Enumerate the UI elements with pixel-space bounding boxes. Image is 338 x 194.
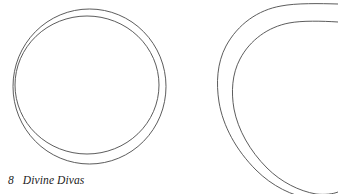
rounded-triangle-pattern — [217, 4, 338, 194]
circle-pattern-inner-outline — [15, 16, 159, 154]
page-footer: 8 Divine Divas — [0, 174, 338, 192]
rounded-triangle-pattern-outer-outline — [217, 4, 338, 194]
circle-pattern — [13, 9, 166, 164]
circle-pattern-outer-outline — [13, 9, 166, 164]
pattern-figures — [0, 0, 338, 194]
rounded-triangle-pattern-inner-outline — [232, 21, 338, 194]
footer-page-number: 8 — [8, 174, 14, 186]
footer-book-title: Divine Divas — [23, 174, 85, 186]
book-page: 8 Divine Divas — [0, 0, 338, 194]
